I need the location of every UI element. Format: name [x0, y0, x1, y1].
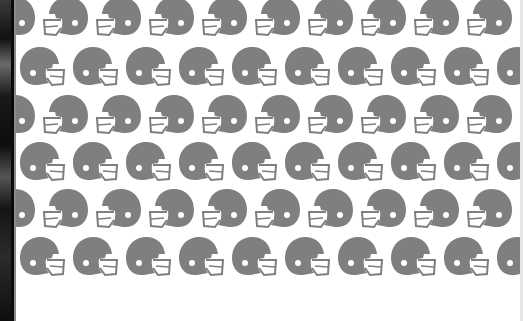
football-helmet-icon	[16, 236, 66, 278]
football-helmet-icon	[201, 94, 251, 136]
football-helmet-icon	[440, 236, 490, 278]
football-helmet-icon	[440, 141, 490, 183]
football-helmet-icon	[201, 188, 251, 230]
football-helmet-icon	[16, 46, 66, 88]
football-helmet-icon	[175, 141, 225, 183]
football-helmet-icon	[69, 46, 119, 88]
football-helmet-icon	[254, 94, 304, 136]
football-helmet-icon	[228, 236, 278, 278]
football-helmet-icon	[95, 0, 145, 38]
football-helmet-icon	[413, 94, 463, 136]
football-helmet-icon	[281, 141, 331, 183]
football-helmet-icon	[334, 141, 384, 183]
football-helmet-icon	[334, 236, 384, 278]
football-helmet-icon	[360, 94, 410, 136]
football-helmet-icon	[95, 94, 145, 136]
football-helmet-icon	[413, 188, 463, 230]
football-helmet-icon	[413, 0, 463, 38]
football-helmet-icon	[493, 46, 520, 88]
football-helmet-icon	[254, 188, 304, 230]
football-helmet-icon	[148, 94, 198, 136]
football-helmet-icon	[466, 94, 516, 136]
football-helmet-icon	[281, 236, 331, 278]
football-helmet-icon	[16, 94, 39, 136]
football-helmet-icon	[122, 236, 172, 278]
football-helmet-icon	[493, 236, 520, 278]
football-helmet-icon	[175, 236, 225, 278]
football-helmet-icon	[440, 46, 490, 88]
football-helmet-icon	[148, 0, 198, 38]
football-helmet-icon	[42, 94, 92, 136]
football-helmet-icon	[228, 46, 278, 88]
football-helmet-icon	[42, 0, 92, 38]
helmet-pattern	[16, 0, 520, 321]
football-helmet-icon	[493, 141, 520, 183]
football-helmet-icon	[307, 0, 357, 38]
football-helmet-icon	[387, 141, 437, 183]
football-helmet-icon	[228, 141, 278, 183]
football-helmet-icon	[201, 0, 251, 38]
football-helmet-icon	[95, 188, 145, 230]
football-helmet-icon	[69, 141, 119, 183]
football-helmet-icon	[307, 94, 357, 136]
football-helmet-icon	[281, 46, 331, 88]
football-helmet-icon	[387, 236, 437, 278]
football-helmet-icon	[69, 236, 119, 278]
football-helmet-icon	[122, 141, 172, 183]
football-helmet-icon	[387, 46, 437, 88]
football-helmet-icon	[16, 141, 66, 183]
football-helmet-icon	[360, 188, 410, 230]
football-helmet-icon	[466, 0, 516, 38]
football-helmet-icon	[42, 188, 92, 230]
football-helmet-icon	[16, 0, 39, 38]
football-helmet-icon	[307, 188, 357, 230]
football-helmet-icon	[254, 0, 304, 38]
football-helmet-icon	[148, 188, 198, 230]
football-helmet-icon	[360, 0, 410, 38]
football-helmet-icon	[334, 46, 384, 88]
football-helmet-icon	[175, 46, 225, 88]
football-helmet-icon	[122, 46, 172, 88]
football-helmet-icon	[466, 188, 516, 230]
football-helmet-icon	[16, 188, 39, 230]
photo-strip	[0, 0, 11, 321]
